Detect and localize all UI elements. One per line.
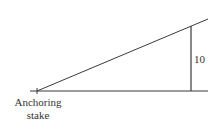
hypotenuse-line bbox=[37, 19, 208, 91]
height-label: 10 bbox=[194, 53, 206, 65]
anchor-label-line2: stake bbox=[27, 109, 50, 121]
triangle-diagram: 10 Anchoring stake bbox=[0, 0, 220, 126]
anchor-label-line1: Anchoring bbox=[14, 96, 62, 108]
